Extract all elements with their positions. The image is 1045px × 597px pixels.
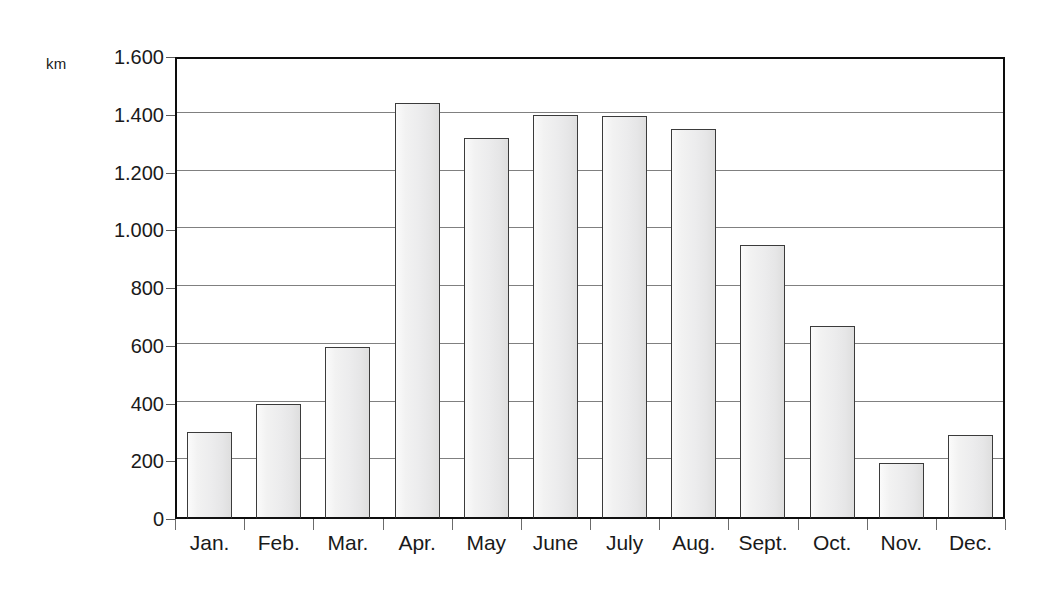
x-axis-tick-label: Jan.	[175, 530, 244, 556]
bar[interactable]	[187, 432, 232, 519]
y-axis-tick-mark	[166, 288, 175, 289]
y-axis-tick-label: 600	[131, 336, 164, 356]
bar[interactable]	[464, 138, 509, 519]
x-axis-tick-mark	[659, 519, 660, 530]
bar[interactable]	[810, 326, 855, 519]
x-axis-tick-label: July	[590, 530, 659, 556]
bar[interactable]	[671, 129, 716, 519]
y-axis-tick-mark	[166, 519, 175, 520]
x-axis-tick-mark	[521, 519, 522, 530]
y-axis-tick-label: 400	[131, 394, 164, 414]
bar[interactable]	[602, 116, 647, 519]
y-axis-tick-label: 1.600	[114, 47, 164, 67]
y-axis-tick-label: 1.200	[114, 163, 164, 183]
bar[interactable]	[879, 463, 924, 519]
x-axis-tick-label: June	[521, 530, 590, 556]
y-axis-tick-mark	[166, 461, 175, 462]
y-axis-tick-label: 1.400	[114, 105, 164, 125]
x-axis-tick-mark	[452, 519, 453, 530]
y-axis-tick-mark	[166, 57, 175, 58]
bar[interactable]	[948, 435, 993, 519]
x-axis-tick-mark	[867, 519, 868, 530]
x-axis-tick-mark	[936, 519, 937, 530]
x-axis-tick-mark	[383, 519, 384, 530]
bar[interactable]	[325, 347, 370, 519]
y-axis-tick-label: 0	[153, 509, 164, 529]
y-axis-tick-mark	[166, 230, 175, 231]
gridline	[177, 112, 1003, 113]
x-axis-tick-label: Aug.	[659, 530, 728, 556]
x-axis-tick-mark	[798, 519, 799, 530]
bar-chart: km 02004006008001.0001.2001.4001.600 Jan…	[0, 0, 1045, 597]
y-axis-tick-mark	[166, 115, 175, 116]
y-axis-tick-label: 1.000	[114, 220, 164, 240]
gridline	[177, 170, 1003, 171]
x-axis-tick-label: Feb.	[244, 530, 313, 556]
x-axis-tick-mark	[175, 519, 176, 530]
y-axis-tick-mark	[166, 173, 175, 174]
y-axis-tick-mark	[166, 404, 175, 405]
y-axis-tick-label: 200	[131, 451, 164, 471]
bar[interactable]	[395, 103, 440, 519]
gridline	[177, 285, 1003, 286]
bar[interactable]	[740, 245, 785, 519]
bar[interactable]	[533, 115, 578, 519]
y-axis-tick-mark	[166, 346, 175, 347]
gridline	[177, 227, 1003, 228]
x-axis-tick-mark	[728, 519, 729, 530]
x-axis-tick-label: Mar.	[313, 530, 382, 556]
x-axis-tick-mark	[590, 519, 591, 530]
y-axis-tick-label: 800	[131, 278, 164, 298]
gridline	[177, 343, 1003, 344]
x-axis-tick-label-group: Jan.Feb.Mar.Apr.MayJuneJulyAug.Sept.Oct.…	[175, 530, 1005, 556]
x-axis-tick-mark	[313, 519, 314, 530]
x-axis-tick-label: Oct.	[798, 530, 867, 556]
x-axis-tick-label: May	[452, 530, 521, 556]
x-axis-tick-label: Apr.	[383, 530, 452, 556]
x-axis-tick-mark	[244, 519, 245, 530]
x-axis-tick-label: Dec.	[936, 530, 1005, 556]
x-axis-tick-label: Sept.	[728, 530, 797, 556]
bar[interactable]	[256, 404, 301, 520]
y-axis-tick-label-group: 02004006008001.0001.2001.4001.600	[0, 57, 164, 519]
gridline	[177, 401, 1003, 402]
x-axis-tick-label: Nov.	[867, 530, 936, 556]
x-axis-tick-mark	[1005, 519, 1006, 530]
